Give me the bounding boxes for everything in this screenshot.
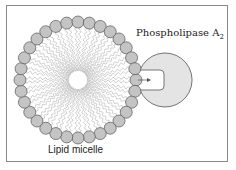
arrowhead-icon (147, 78, 151, 82)
enzyme-label: Phospholipase A2 (136, 27, 224, 41)
micelle-diagram (0, 0, 236, 170)
micelle-label: Lipid micelle (48, 144, 103, 155)
micelle-core (71, 73, 85, 87)
